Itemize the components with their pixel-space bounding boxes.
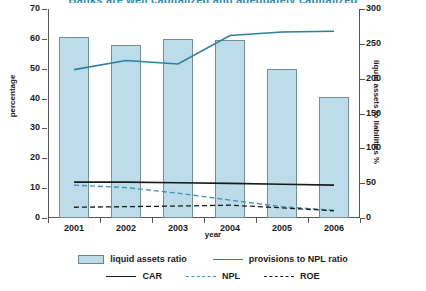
legend-label: ROE — [300, 271, 320, 281]
y-right-tick-mark — [360, 183, 365, 184]
y-left-tick-mark — [42, 39, 47, 40]
legend-swatch-line — [213, 259, 243, 260]
x-tick-mark — [48, 218, 49, 223]
y-right-tick-label: 0 — [366, 212, 396, 222]
y-left-tick-mark — [42, 158, 47, 159]
x-tick-mark — [360, 218, 361, 223]
x-tick-mark — [204, 218, 205, 223]
y-right-tick-mark — [360, 79, 365, 80]
line-npl — [74, 185, 334, 210]
x-tick-mark — [308, 218, 309, 223]
y-left-tick-mark — [42, 69, 47, 70]
y-right-tick-mark — [360, 44, 365, 45]
y-left-tick-label: 20 — [14, 152, 40, 162]
x-tick-mark — [100, 218, 101, 223]
y-right-tick-label: 300 — [366, 3, 396, 13]
y-right-tick-label: 150 — [366, 108, 396, 118]
legend-row-primary: liquid assets ratioprovisions to NPL rat… — [0, 254, 426, 264]
y-left-tick-mark — [42, 9, 47, 10]
legend-item-npl[interactable]: NPL — [186, 271, 240, 281]
line-provisions-to-npl-ratio — [74, 31, 334, 69]
chart-title: Banks are well capitalized and adequatel… — [0, 0, 426, 3]
legend-row-secondary: CARNPLROE — [0, 271, 426, 281]
y-left-tick-mark — [42, 99, 47, 100]
y-left-axis-title: percentage — [8, 75, 17, 118]
y-left-tick-label: 70 — [14, 3, 40, 13]
legend-label: CAR — [142, 271, 162, 281]
y-right-tick-label: 200 — [366, 73, 396, 83]
y-right-tick-label: 250 — [366, 38, 396, 48]
plot-area: 010203040506070 050100150200250300 20012… — [48, 9, 360, 218]
legend-label: liquid assets ratio — [110, 254, 187, 264]
y-left-tick-mark — [42, 218, 47, 219]
y-left-tick-mark — [42, 128, 47, 129]
y-right-axis-title: liquid assets to liabilities % — [372, 60, 381, 164]
y-left-tick-label: 60 — [14, 33, 40, 43]
y-left-tick-mark — [42, 188, 47, 189]
y-left-tick-label: 40 — [14, 93, 40, 103]
legend-swatch-dashed-line — [186, 276, 216, 277]
legend-label: NPL — [222, 271, 240, 281]
y-left-tick-label: 10 — [14, 182, 40, 192]
y-right-tick-label: 50 — [366, 177, 396, 187]
y-left-tick-label: 0 — [14, 212, 40, 222]
line-roe — [74, 205, 334, 211]
y-right-tick-label: 100 — [366, 142, 396, 152]
y-left-tick-label: 30 — [14, 122, 40, 132]
legend-item-car[interactable]: CAR — [106, 271, 162, 281]
x-tick-mark — [152, 218, 153, 223]
y-right-tick-mark — [360, 148, 365, 149]
y-right-tick-mark — [360, 114, 365, 115]
legend-swatch-line — [106, 276, 136, 277]
legend-item-provisions-to-npl-ratio[interactable]: provisions to NPL ratio — [213, 254, 348, 264]
x-tick-mark — [256, 218, 257, 223]
chart-figure: Banks are well capitalized and adequatel… — [0, 0, 426, 291]
line-car — [74, 182, 334, 185]
y-right-tick-mark — [360, 9, 365, 10]
x-axis-title: year — [0, 230, 426, 239]
legend-swatch-box — [78, 255, 104, 264]
line-series-group — [48, 9, 360, 218]
legend-swatch-dashed-line — [264, 276, 294, 277]
legend-item-roe[interactable]: ROE — [264, 271, 320, 281]
legend-label: provisions to NPL ratio — [249, 254, 348, 264]
y-left-tick-label: 50 — [14, 63, 40, 73]
chart-legend: liquid assets ratioprovisions to NPL rat… — [0, 252, 426, 291]
legend-item-liquid-assets-ratio[interactable]: liquid assets ratio — [78, 254, 187, 264]
